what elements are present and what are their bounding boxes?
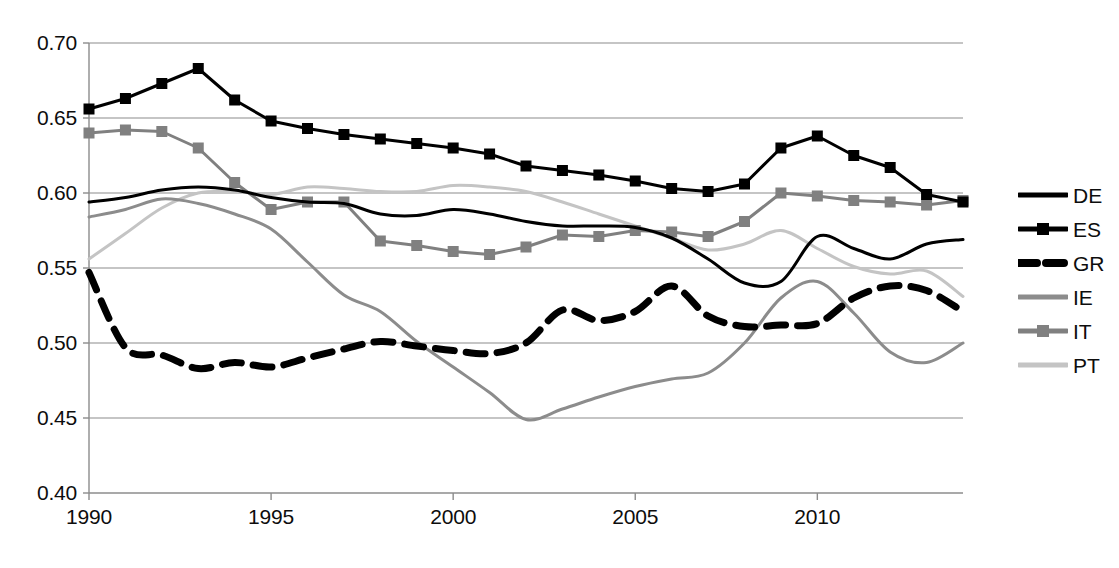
data-point-marker [921,200,932,211]
legend-swatch-de [1018,185,1068,205]
legend-swatch-es [1018,219,1068,239]
series-line-gr [89,273,963,369]
x-tick-label: 2000 [408,505,498,529]
y-tick-label: 0.40 [7,481,77,505]
chart-plot-area [0,0,1119,568]
data-point-marker [484,249,495,260]
legend-swatch-pt [1018,355,1068,375]
y-tick-label: 0.45 [7,406,77,430]
series-de [89,187,963,287]
series-line-de [89,187,963,287]
legend-swatch-ie [1018,287,1068,307]
legend-item-it[interactable]: IT [1018,314,1118,348]
data-point-marker [193,143,204,154]
data-point-marker [156,78,167,89]
data-point-marker [448,143,459,154]
y-tick-label: 0.60 [7,181,77,205]
legend-item-gr[interactable]: GR [1018,246,1118,280]
series-gr [89,273,963,369]
x-tick-label: 1995 [226,505,316,529]
legend-item-es[interactable]: ES [1018,212,1118,246]
data-point-marker [593,170,604,181]
legend-item-ie[interactable]: IE [1018,280,1118,314]
data-point-marker [921,189,932,200]
data-point-marker [885,162,896,173]
legend-swatch-it [1018,321,1068,341]
data-point-marker [885,197,896,208]
data-point-marker [448,246,459,257]
data-point-marker [958,197,969,208]
series-line-es [89,69,963,203]
data-point-marker [302,123,313,134]
data-point-marker [521,161,532,172]
data-point-marker [593,231,604,242]
legend-label: IE [1073,287,1093,308]
data-point-marker [739,179,750,190]
data-point-marker [775,143,786,154]
data-point-marker [411,138,422,149]
data-point-marker [812,131,823,142]
data-point-marker [229,95,240,106]
series-ie [89,199,963,420]
line-chart: 0.400.450.500.550.600.650.70 19901995200… [0,0,1119,568]
data-point-marker [338,129,349,140]
legend-marker [1037,325,1049,337]
y-tick-label: 0.55 [7,256,77,280]
data-point-marker [84,128,95,139]
data-point-marker [557,230,568,241]
gridlines [89,43,963,493]
data-point-marker [703,186,714,197]
data-point-marker [120,93,131,104]
legend-item-pt[interactable]: PT [1018,348,1118,382]
data-point-marker [266,204,277,215]
data-point-marker [630,176,641,187]
x-tick-label: 1990 [44,505,134,529]
legend-label: GR [1073,253,1105,274]
data-point-marker [84,104,95,115]
data-point-marker [848,195,859,206]
chart-legend: DEESGRIEITPT [1018,178,1118,382]
data-point-marker [557,165,568,176]
y-tick-label: 0.70 [7,31,77,55]
data-point-marker [120,125,131,136]
legend-swatch-gr [1018,253,1068,273]
x-tick-label: 2010 [772,505,862,529]
series-line-pt [89,185,963,296]
series-es [84,63,969,208]
legend-label: DE [1073,185,1102,206]
y-tick-label: 0.65 [7,106,77,130]
legend-item-de[interactable]: DE [1018,178,1118,212]
data-point-marker [521,242,532,253]
data-point-marker [375,236,386,247]
legend-marker [1037,223,1049,235]
data-point-marker [229,177,240,188]
series-layer [84,63,969,420]
y-tick-label: 0.50 [7,331,77,355]
x-tick-label: 2005 [590,505,680,529]
data-point-marker [156,126,167,137]
data-point-marker [812,191,823,202]
series-line-ie [89,199,963,420]
data-point-marker [666,183,677,194]
data-point-marker [411,240,422,251]
data-point-marker [375,134,386,145]
data-point-marker [848,150,859,161]
data-point-marker [193,63,204,74]
series-pt [89,185,963,296]
data-point-marker [266,116,277,127]
data-point-marker [739,216,750,227]
data-point-marker [703,231,714,242]
x-axis-ticks [89,493,817,500]
data-point-marker [775,188,786,199]
data-point-marker [484,149,495,160]
legend-label: IT [1073,321,1092,342]
legend-label: PT [1073,355,1100,376]
legend-label: ES [1073,219,1101,240]
